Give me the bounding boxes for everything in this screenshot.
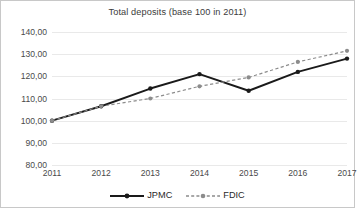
data-point-fdic-2017[interactable] xyxy=(345,49,349,53)
legend-label-jpmc: JPMC xyxy=(147,191,172,200)
data-point-jpmc-2016[interactable] xyxy=(296,70,300,74)
legend-item-fdic[interactable]: FDIC xyxy=(186,191,244,201)
data-point-fdic-2013[interactable] xyxy=(148,96,152,100)
data-point-fdic-2015[interactable] xyxy=(247,75,251,79)
chart-legend: JPMC FDIC xyxy=(1,191,354,201)
data-point-fdic-2016[interactable] xyxy=(296,60,300,64)
chart-series-layer xyxy=(1,1,356,209)
data-point-jpmc-2015[interactable] xyxy=(246,89,250,93)
data-point-fdic-2012[interactable] xyxy=(99,104,103,108)
series-line-jpmc xyxy=(52,59,347,121)
data-point-fdic-2014[interactable] xyxy=(197,84,201,88)
legend-swatch-fdic-icon xyxy=(186,191,220,201)
data-point-jpmc-2017[interactable] xyxy=(345,56,349,60)
legend-item-jpmc[interactable]: JPMC xyxy=(110,191,172,201)
legend-swatch-jpmc-icon xyxy=(110,191,144,201)
legend-label-fdic: FDIC xyxy=(223,191,244,200)
data-point-jpmc-2013[interactable] xyxy=(148,86,152,90)
data-point-fdic-2011[interactable] xyxy=(50,119,54,123)
data-point-jpmc-2014[interactable] xyxy=(197,72,201,76)
